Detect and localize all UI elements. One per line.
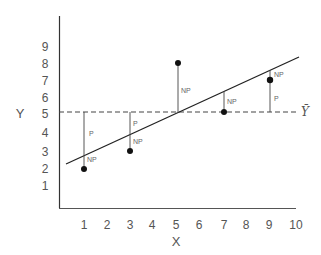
svg-text:8: 8	[243, 218, 250, 232]
svg-text:9: 9	[266, 218, 273, 232]
svg-text:7: 7	[221, 218, 228, 232]
data-point	[221, 109, 227, 115]
svg-text:6: 6	[196, 218, 203, 232]
data-point	[81, 166, 87, 172]
svg-text:P: P	[89, 130, 94, 137]
data-points	[81, 60, 273, 172]
mean-label: Ȳ	[301, 104, 310, 119]
svg-text:9: 9	[42, 40, 49, 54]
x-axis-title: X	[172, 234, 181, 249]
svg-text:3: 3	[127, 218, 134, 232]
svg-text:NP: NP	[181, 87, 191, 94]
svg-text:4: 4	[149, 218, 156, 232]
svg-text:1: 1	[42, 179, 49, 193]
regression-chart: 9 8 7 6 5 4 3 2 1 1 2 3 4 5 6 7 8 9 10 X…	[0, 0, 321, 255]
y-axis-title: Y	[16, 106, 25, 121]
data-point	[267, 77, 273, 83]
svg-text:NP: NP	[133, 138, 143, 145]
svg-text:1: 1	[81, 218, 88, 232]
svg-text:6: 6	[42, 91, 49, 105]
svg-text:NP: NP	[227, 98, 237, 105]
svg-text:P: P	[133, 120, 138, 127]
data-point	[175, 60, 181, 66]
svg-text:4: 4	[42, 126, 49, 140]
data-point	[127, 148, 133, 154]
svg-text:8: 8	[42, 57, 49, 71]
segment-annotations: P NP P NP NP NP NP P	[87, 71, 284, 163]
svg-text:10: 10	[289, 218, 303, 232]
svg-text:7: 7	[42, 74, 49, 88]
svg-text:5: 5	[42, 107, 49, 121]
svg-text:NP: NP	[87, 156, 97, 163]
svg-text:NP: NP	[274, 71, 284, 78]
residual-segments	[84, 63, 270, 169]
regression-line	[66, 57, 299, 164]
x-tick-labels: 1 2 3 4 5 6 7 8 9 10	[81, 218, 303, 232]
y-tick-labels: 9 8 7 6 5 4 3 2 1	[42, 40, 49, 193]
svg-text:P: P	[274, 95, 279, 102]
svg-text:2: 2	[104, 218, 111, 232]
svg-text:3: 3	[42, 145, 49, 159]
svg-text:2: 2	[42, 162, 49, 176]
svg-text:5: 5	[173, 218, 180, 232]
